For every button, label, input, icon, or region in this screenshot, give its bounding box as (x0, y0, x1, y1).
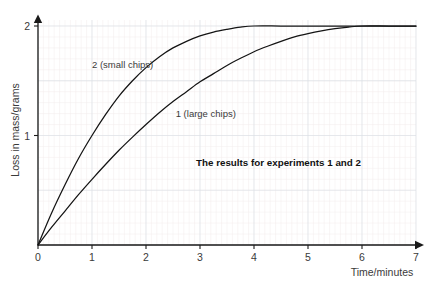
plot-caption: The results for experiments 1 and 2 (196, 157, 362, 168)
x-tick-label: 1 (89, 251, 95, 263)
x-axis-ticks: 01234567 (35, 245, 419, 263)
grid-minor-lines (38, 20, 416, 245)
x-tick-label: 0 (35, 251, 41, 263)
curve-label-2: 1 (large chips) (176, 108, 236, 119)
x-tick-label: 5 (305, 251, 311, 263)
y-tick-label: 2 (24, 20, 30, 32)
curve-label-1: 2 (small chips) (92, 59, 153, 70)
x-tick-label: 6 (359, 251, 365, 263)
y-tick-label: 1 (24, 130, 30, 142)
axes (34, 15, 424, 250)
x-tick-label: 7 (413, 251, 419, 263)
x-tick-label: 2 (143, 251, 149, 263)
chart-svg: 01234567 12 2 (small chips)1 (large chip… (0, 0, 429, 289)
y-axis-title: Loss in mass/grams (9, 83, 21, 176)
y-axis-arrow-icon (34, 15, 42, 24)
y-axis-ticks: 12 (24, 20, 38, 142)
chart-container: 01234567 12 2 (small chips)1 (large chip… (0, 0, 429, 289)
x-axis-title: Time/minutes (351, 266, 414, 278)
x-tick-label: 3 (197, 251, 203, 263)
x-tick-label: 4 (251, 251, 257, 263)
